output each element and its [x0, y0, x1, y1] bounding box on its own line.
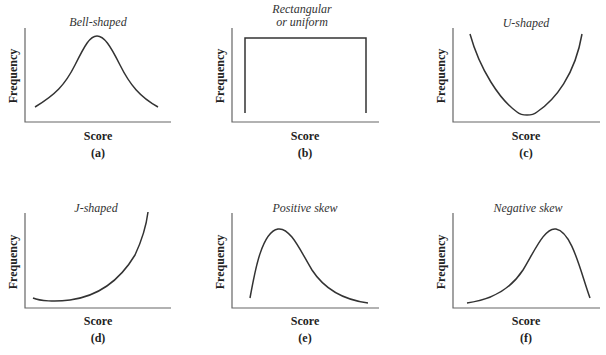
panel-e-positive-skew: Positive skew Frequency Score (e): [213, 201, 379, 345]
panel-a-title: Bell-shaped: [69, 15, 127, 29]
panel-c-axes: [453, 28, 600, 122]
panel-a-bell-shaped: Bell-shaped Frequency Score (a): [6, 15, 171, 160]
panel-e-ylabel: Frequency: [213, 235, 227, 289]
panel-d-axes: [25, 213, 171, 308]
panel-a-axes: [25, 28, 171, 122]
panel-c-xlabel: Score: [512, 129, 541, 143]
panel-b-xlabel: Score: [291, 129, 320, 143]
panel-d-title: J-shaped: [74, 201, 118, 215]
panel-d-label: (d): [91, 331, 106, 345]
distribution-shapes-figure: Bell-shaped Frequency Score (a) Rectangu…: [0, 0, 606, 355]
panel-b-title-line2: or uniform: [276, 15, 328, 29]
panel-e-xlabel: Score: [291, 314, 320, 328]
panel-c-curve: [470, 34, 582, 115]
panel-c-ylabel: Frequency: [434, 49, 448, 103]
panel-c-label: (c): [519, 146, 532, 160]
panel-c-title: U-shaped: [503, 16, 551, 30]
panel-e-curve: [250, 229, 368, 303]
panel-d-curve: [33, 212, 148, 301]
panel-f-negative-skew: Negative skew Frequency Score (f): [434, 201, 600, 345]
panel-f-title: Negative skew: [493, 201, 563, 215]
panel-a-curve: [35, 36, 158, 107]
panel-e-axes: [232, 213, 379, 308]
panel-b-curve: [245, 38, 366, 113]
panel-b-label: (b): [298, 146, 313, 160]
panel-b-ylabel: Frequency: [213, 49, 227, 103]
panel-f-xlabel: Score: [512, 314, 541, 328]
panel-d-ylabel: Frequency: [6, 235, 20, 289]
panel-a-xlabel: Score: [84, 129, 113, 143]
panel-d-xlabel: Score: [84, 314, 113, 328]
panel-b-rectangular: Rectangular or uniform Frequency Score (…: [213, 2, 379, 160]
panel-c-u-shaped: U-shaped Frequency Score (c): [434, 16, 600, 160]
panel-e-title: Positive skew: [272, 201, 338, 215]
panel-a-ylabel: Frequency: [6, 49, 20, 103]
panel-d-j-shaped: J-shaped Frequency Score (d): [6, 201, 171, 345]
panel-b-title-line1: Rectangular: [271, 2, 332, 16]
panel-f-ylabel: Frequency: [434, 235, 448, 289]
panel-a-label: (a): [91, 146, 105, 160]
panel-f-label: (f): [520, 331, 532, 345]
panel-b-axes: [232, 28, 379, 122]
panel-f-curve: [467, 229, 590, 303]
panel-e-label: (e): [298, 331, 311, 345]
